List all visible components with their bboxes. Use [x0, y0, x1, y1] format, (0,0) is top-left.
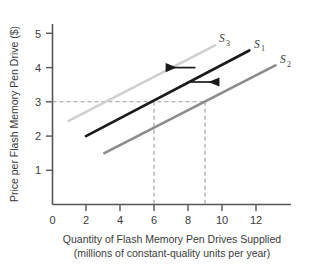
axes	[53, 24, 292, 205]
curve-label-s3: S 3	[219, 32, 230, 48]
y-tick-label-4: 4	[35, 62, 41, 74]
curve-label-s1-text: S	[254, 38, 260, 50]
x-axis-ticks	[86, 205, 256, 212]
curve-label-s1: S 1	[254, 38, 265, 54]
curve-label-s1-subscript: 1	[261, 44, 265, 53]
x-axis-tick-labels: 0 2 4 6 8 10 12	[49, 214, 262, 226]
y-tick-label-5: 5	[35, 28, 41, 40]
y-axis-ticks	[46, 33, 53, 170]
y-axis-title: Price per Flash Memory Pen Drive ($)	[8, 26, 20, 202]
supply-curve-s2	[104, 65, 275, 153]
y-tick-label-3: 3	[35, 96, 41, 108]
y-tick-label-2: 2	[35, 130, 41, 142]
curve-label-s3-text: S	[219, 32, 225, 44]
x-tick-label-6: 6	[151, 214, 157, 226]
x-tick-label-12: 12	[250, 214, 262, 226]
supply-curve-figure: 5 4 3 2 1 0 2 4 6 8 10 12	[0, 0, 317, 275]
curve-label-s2-subscript: 2	[287, 60, 291, 69]
x-axis-title-line2: (millions of constant-quality units per …	[74, 247, 271, 259]
curve-label-s2: S 2	[280, 53, 291, 69]
x-axis-title-line1: Quantity of Flash Memory Pen Drives Supp…	[63, 233, 281, 245]
x-tick-label-4: 4	[117, 214, 123, 226]
y-axis-tick-labels: 5 4 3 2 1	[35, 28, 41, 177]
supply-curve-s3	[69, 45, 215, 121]
x-tick-label-8: 8	[185, 214, 191, 226]
x-tick-label-0: 0	[49, 214, 55, 226]
y-tick-label-1: 1	[35, 164, 41, 176]
x-tick-label-10: 10	[216, 214, 228, 226]
x-tick-label-2: 2	[83, 214, 89, 226]
supply-curve-s1	[86, 51, 249, 137]
curve-label-s3-subscript: 3	[226, 39, 230, 48]
chart-canvas: 5 4 3 2 1 0 2 4 6 8 10 12	[0, 0, 317, 275]
curve-label-s2-text: S	[280, 53, 286, 65]
